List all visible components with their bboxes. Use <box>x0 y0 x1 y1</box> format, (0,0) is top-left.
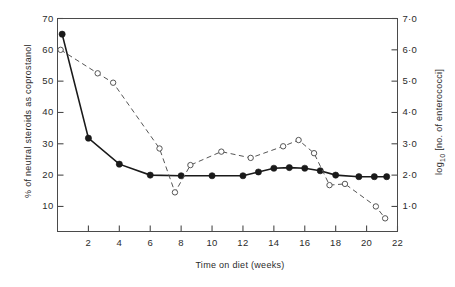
data-point-open <box>327 182 332 187</box>
y-axis-right-tick-label: 1·0 <box>403 200 435 211</box>
x-axis-tick-label: 12 <box>229 237 257 248</box>
data-point-open <box>219 149 224 154</box>
axis-ticks-group <box>58 19 398 232</box>
y-axis-right-tick-label: 2·0 <box>403 169 435 180</box>
data-point-open <box>58 47 63 52</box>
data-point-open <box>157 146 162 151</box>
data-point-filled <box>371 174 377 180</box>
data-point-filled <box>59 31 65 37</box>
data-point-open <box>172 190 177 195</box>
data-point-filled <box>240 173 246 179</box>
data-series-group <box>58 31 390 221</box>
data-point-filled <box>286 165 292 171</box>
data-point-open <box>342 181 347 186</box>
data-point-filled <box>147 172 153 178</box>
data-point-filled <box>209 173 215 179</box>
x-axis-tick-label: 2 <box>74 237 102 248</box>
y-axis-right-title: log10 [no. of enterococci] <box>434 22 446 222</box>
y-axis-right-tick-label: 5·0 <box>403 75 435 86</box>
data-point-filled <box>356 174 362 180</box>
data-point-filled <box>384 174 390 180</box>
series-line-0 <box>62 34 387 177</box>
x-axis-tick-label: 22 <box>384 237 412 248</box>
data-point-open <box>382 216 387 221</box>
x-axis-tick-label: 18 <box>322 237 350 248</box>
data-point-filled <box>333 172 339 178</box>
data-point-open <box>280 144 285 149</box>
data-point-open <box>373 204 378 209</box>
x-axis-tick-label: 6 <box>136 237 164 248</box>
y-axis-right-tick-label: 3·0 <box>403 138 435 149</box>
data-point-open <box>296 137 301 142</box>
x-axis-tick-label: 16 <box>291 237 319 248</box>
chart-container: 10203040506070 1·02·03·04·05·06·07·0 246… <box>0 0 455 287</box>
data-point-open <box>110 80 115 85</box>
x-axis-tick-label: 10 <box>198 237 226 248</box>
data-point-filled <box>271 165 277 171</box>
y-axis-right-tick-label: 4·0 <box>403 106 435 117</box>
data-point-filled <box>255 169 261 175</box>
data-point-open <box>311 150 316 155</box>
y-axis-right-tick-label: 7·0 <box>403 13 435 24</box>
x-axis-title: Time on diet (weeks) <box>140 260 340 270</box>
y-axis-right-tick-label: 6·0 <box>403 44 435 55</box>
x-axis-tick-label: 8 <box>167 237 195 248</box>
x-axis-tick-label: 20 <box>353 237 381 248</box>
x-axis-tick-label: 14 <box>260 237 288 248</box>
x-axis-tick-label: 4 <box>105 237 133 248</box>
data-point-open <box>95 71 100 76</box>
data-point-open <box>188 162 193 167</box>
data-point-open <box>248 155 253 160</box>
data-point-filled <box>116 161 122 167</box>
y-axis-left-title: % of neutral steroids as coprostanol <box>23 21 33 221</box>
data-point-filled <box>85 135 91 141</box>
series-line-1 <box>61 50 386 219</box>
data-point-filled <box>302 165 308 171</box>
